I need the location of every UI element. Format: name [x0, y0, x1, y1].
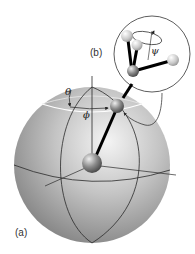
center-ball [82, 153, 102, 173]
panel-a-label: (a) [15, 228, 27, 238]
psi-label: ψ [151, 46, 159, 56]
panel-b-label: (b) [90, 48, 102, 58]
rotational-coordinates-diagram: (b) (a) θ ϕ ψ [0, 0, 195, 254]
diagram-graphic [0, 0, 195, 254]
phi-label: ϕ [83, 110, 90, 120]
theta-label: θ [65, 87, 71, 97]
inset-molecule [114, 16, 190, 98]
surface-ball [110, 99, 124, 113]
